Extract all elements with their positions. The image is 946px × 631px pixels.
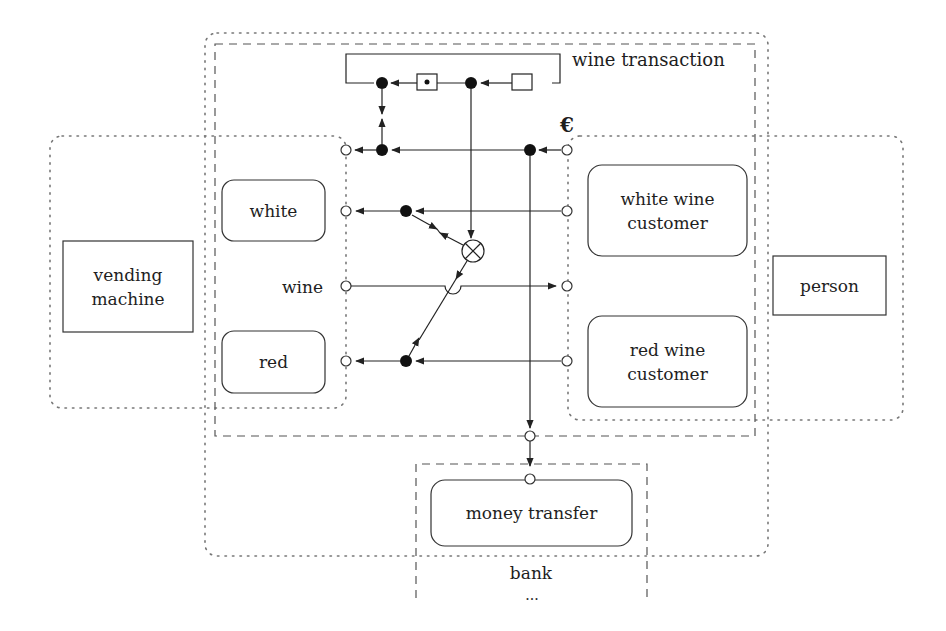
junction-dot [524, 144, 536, 156]
vending-machine-line2: machine [91, 287, 164, 311]
person-text: person [800, 274, 859, 298]
white-wine-customer-label: white wine customer [588, 165, 747, 256]
port-wine-right [562, 281, 572, 291]
wine-transaction-diagram: wine transaction € wine vending machine … [0, 0, 946, 631]
money-transfer-label: money transfer [431, 480, 632, 546]
port-white-left [341, 206, 351, 216]
white-wine-customer-line2: customer [627, 211, 708, 235]
red-wine-customer-line1: red wine [630, 338, 705, 362]
vending-machine-line1: vending [94, 263, 163, 287]
junction-dot [400, 205, 412, 217]
port-red-right [562, 356, 572, 366]
port-wine-left [341, 281, 351, 291]
junction-dot [376, 77, 388, 89]
white-role-label: white [222, 180, 325, 241]
vending-machine-label: vending machine [63, 241, 193, 332]
bank-label: bank [506, 561, 556, 585]
junction-dot [465, 77, 477, 89]
junction-dot [400, 355, 412, 367]
port-euro-left [341, 145, 351, 155]
red-wine-customer-line2: customer [627, 362, 708, 386]
red-role-label: red [222, 331, 325, 393]
red-role-text: red [259, 350, 288, 374]
port-red-left [341, 356, 351, 366]
port-white-right [562, 206, 572, 216]
junction-dot [376, 144, 388, 156]
red-wine-customer-label: red wine customer [588, 316, 747, 407]
white-role-text: white [250, 199, 298, 223]
person-label: person [773, 256, 886, 315]
money-transfer-text: money transfer [466, 501, 598, 525]
wine-port-label: wine [282, 275, 323, 299]
state-box-empty [512, 74, 532, 90]
port-transaction-bottom [525, 431, 535, 441]
wine-transaction-title: wine transaction [572, 48, 725, 72]
bank-ellipsis: ... [512, 583, 552, 607]
euro-symbol: € [560, 113, 574, 137]
port-euro-right [562, 145, 572, 155]
white-wine-customer-line1: white wine [620, 187, 714, 211]
